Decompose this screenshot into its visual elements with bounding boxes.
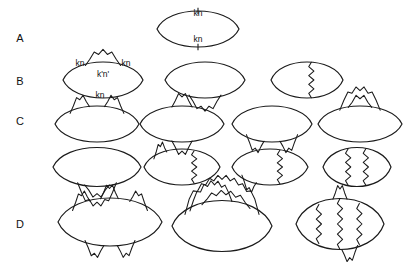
row-label-c: C — [16, 115, 24, 127]
feynman-diagram-figure: ABCD knknknknk'n'kn — [0, 0, 410, 262]
row-label-a: A — [16, 32, 24, 44]
row-label-d: D — [16, 218, 24, 230]
momentum-label-b-bottom: kn — [96, 90, 105, 100]
figure-background — [0, 0, 410, 262]
row-label-b: B — [16, 75, 23, 87]
momentum-label-b-mid: k'n' — [97, 69, 110, 79]
momentum-label-a-bottom: kn — [194, 34, 203, 44]
